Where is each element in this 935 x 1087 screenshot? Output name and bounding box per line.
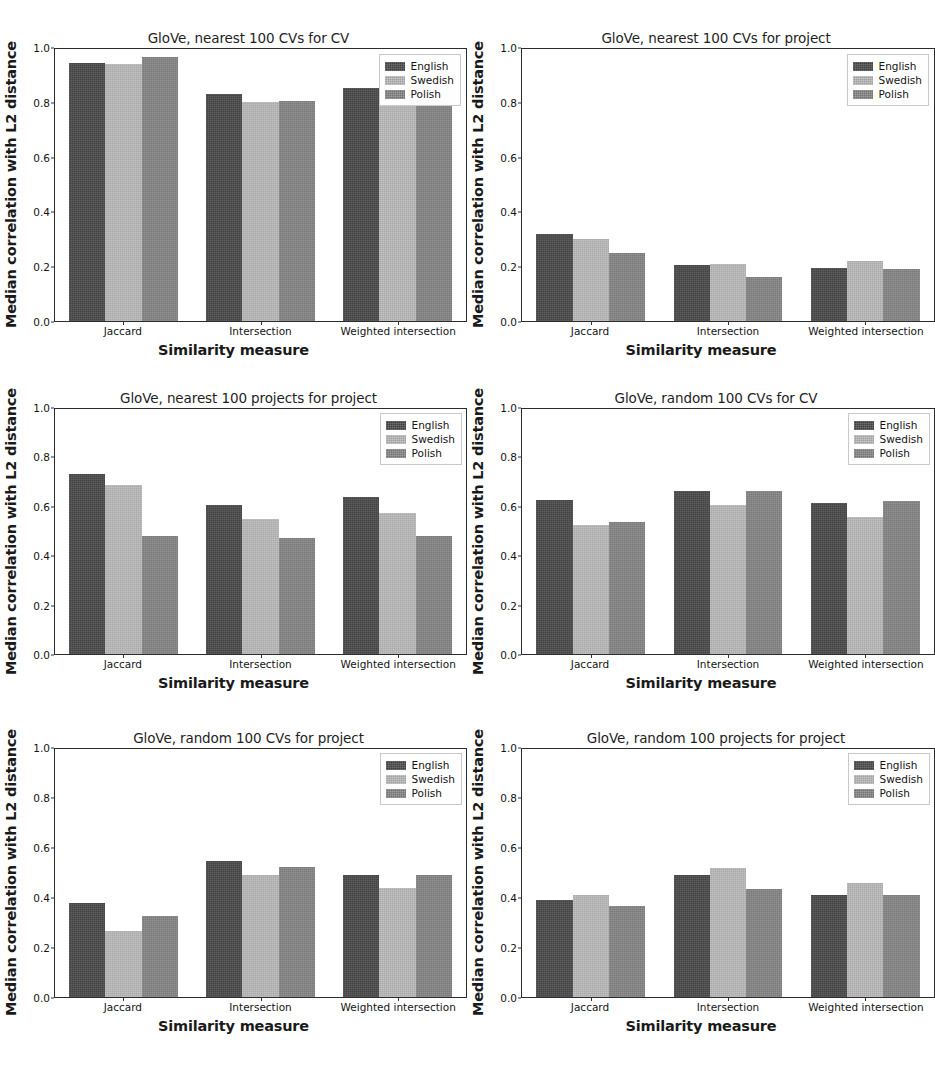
legend-item: Swedish: [386, 772, 455, 786]
bar: [811, 895, 847, 997]
x-tick-label: Jaccard: [571, 325, 609, 337]
bar: [811, 503, 847, 654]
chart-panel: GloVe, random 100 CVs for CVMedian corre…: [467, 380, 935, 720]
y-tick-label: 1.0: [33, 742, 50, 754]
legend-color-swatch: [385, 62, 405, 71]
chart-legend: EnglishSwedishPolish: [848, 753, 930, 805]
chart-panel: GloVe, random 100 CVs for projectMedian …: [0, 720, 467, 1087]
bar: [416, 875, 452, 997]
y-tick-label: 0.2: [33, 261, 50, 273]
x-axis-ticks: JaccardIntersectionWeighted intersection: [467, 322, 935, 341]
chart-legend: EnglishSwedishPolish: [847, 54, 929, 106]
legend-item: Polish: [854, 786, 923, 800]
bar: [105, 931, 141, 997]
legend-item: Swedish: [853, 73, 922, 87]
legend-item: English: [854, 758, 923, 772]
legend-label: Polish: [879, 88, 909, 100]
bar: [609, 522, 645, 654]
bar: [847, 261, 883, 321]
panel-grid: GloVe, nearest 100 CVs for CVMedian corr…: [0, 14, 935, 1087]
legend-item: English: [386, 418, 455, 432]
legend-label: Polish: [412, 787, 442, 799]
legend-label: English: [412, 759, 450, 771]
y-tick-label: 0.2: [33, 942, 50, 954]
bar: [710, 264, 746, 321]
y-tick-label: 0.2: [500, 600, 517, 612]
bar: [883, 501, 919, 654]
bar: [279, 101, 315, 321]
chart-panel: GloVe, nearest 100 CVs for projectMedian…: [467, 14, 935, 380]
bar: [536, 234, 572, 321]
y-tick-label: 0.4: [33, 550, 50, 562]
x-tick-label: Weighted intersection: [808, 325, 923, 337]
y-tick-label: 1.0: [500, 42, 517, 54]
x-tick-label: Intersection: [229, 1001, 291, 1013]
bar: [343, 497, 379, 654]
x-axis-ticks: JaccardIntersectionWeighted intersection: [0, 322, 467, 341]
legend-color-swatch: [386, 775, 406, 784]
y-tick-label: 0.6: [33, 501, 50, 513]
chart-legend: EnglishSwedishPolish: [379, 54, 461, 106]
bar: [242, 102, 278, 321]
bar: [379, 513, 415, 654]
chart-title: GloVe, random 100 CVs for project: [0, 728, 467, 748]
bar: [746, 491, 782, 654]
legend-label: English: [411, 60, 449, 72]
legend-color-swatch: [854, 775, 874, 784]
legend-item: English: [854, 418, 923, 432]
bar: [536, 500, 572, 654]
legend-item: English: [386, 758, 455, 772]
bar: [847, 883, 883, 997]
legend-label: Swedish: [879, 74, 922, 86]
legend-label: English: [880, 759, 918, 771]
x-axis-label: Similarity measure: [0, 341, 467, 358]
legend-item: Swedish: [854, 432, 923, 446]
bar: [242, 519, 278, 654]
bar: [710, 868, 746, 997]
bar: [142, 536, 178, 654]
legend-label: Swedish: [880, 773, 923, 785]
legend-item: Swedish: [386, 432, 455, 446]
legend-label: Polish: [880, 447, 910, 459]
chart-title: GloVe, random 100 CVs for CV: [467, 388, 935, 408]
legend-color-swatch: [386, 789, 406, 798]
legend-label: Polish: [411, 88, 441, 100]
chart-legend: EnglishSwedishPolish: [380, 753, 462, 805]
bar: [343, 875, 379, 997]
bar: [416, 536, 452, 654]
legend-color-swatch: [854, 789, 874, 798]
x-axis-label: Similarity measure: [467, 1017, 935, 1034]
legend-item: Polish: [386, 446, 455, 460]
bar: [206, 861, 242, 997]
bar: [609, 253, 645, 321]
legend-color-swatch: [854, 761, 874, 770]
y-tick-label: 0.2: [33, 600, 50, 612]
bar: [416, 95, 452, 321]
bar: [142, 57, 178, 321]
figure-multipanel-bar-charts: GloVe, nearest 100 CVs for CVMedian corr…: [0, 0, 935, 1087]
y-tick-label: 0.4: [33, 892, 50, 904]
chart-panel: GloVe, random 100 projects for projectMe…: [467, 720, 935, 1087]
x-tick-label: Weighted intersection: [340, 1001, 455, 1013]
bar: [343, 88, 379, 321]
legend-label: English: [879, 60, 917, 72]
bar: [105, 485, 141, 654]
bar: [69, 63, 105, 321]
bar: [536, 900, 572, 997]
legend-item: Polish: [854, 446, 923, 460]
y-tick-label: 0.4: [500, 892, 517, 904]
y-tick-label: 1.0: [500, 742, 517, 754]
legend-color-swatch: [853, 76, 873, 85]
y-tick-label: 0.6: [33, 842, 50, 854]
chart-legend: EnglishSwedishPolish: [380, 413, 462, 465]
bar: [674, 265, 710, 321]
bar: [883, 895, 919, 997]
y-axis-label: Median correlation with L2 distance: [467, 748, 489, 998]
bar: [710, 505, 746, 654]
y-axis-ticks: 0.00.20.40.60.81.0: [22, 48, 54, 322]
bar: [847, 517, 883, 654]
y-axis-ticks: 0.00.20.40.60.81.0: [489, 48, 521, 322]
legend-label: Polish: [412, 447, 442, 459]
legend-color-swatch: [385, 76, 405, 85]
bar: [242, 875, 278, 997]
